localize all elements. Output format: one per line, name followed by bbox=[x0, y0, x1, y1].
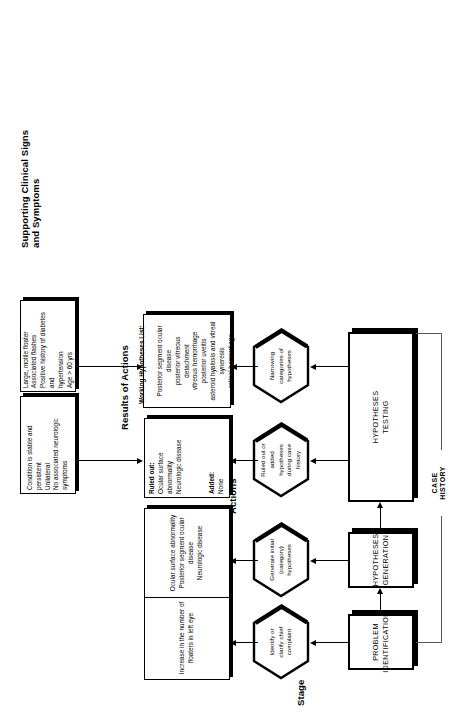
signs-box-working-hypotheses[interactable]: Large, motile floater Associated flashes… bbox=[20, 300, 76, 392]
figure-root: Stage Actions Results of Actions Support… bbox=[0, 0, 454, 722]
arrowhead-stage3-action4 bbox=[310, 364, 316, 370]
flowchart-canvas: Stage Actions Results of Actions Support… bbox=[0, 0, 454, 722]
connector-stage2-stage3 bbox=[380, 508, 381, 529]
signs-text: Large, motile floater Associated flashes… bbox=[20, 301, 77, 391]
case-history-leg-left bbox=[416, 642, 442, 643]
column-header-stage: Stage bbox=[296, 680, 307, 706]
stage-label: PROBLEM IDENTIFICATION bbox=[369, 608, 394, 675]
stage-label: HYPOTHESES GENERATION bbox=[369, 531, 394, 590]
action-hexagon-identify-chief-complaint[interactable]: Identify or clarify chief complaint bbox=[252, 604, 310, 680]
action-label: Generate initial (category) hypotheses bbox=[252, 522, 310, 598]
arrowhead-action1-result1 bbox=[230, 640, 236, 646]
result-text: Increase in the number of floaters in le… bbox=[176, 599, 198, 677]
arrowhead-action2-result2 bbox=[230, 558, 236, 564]
result-box-ruled-out-added[interactable]: Ruled out: Ocular surface abnormality Ne… bbox=[144, 418, 230, 498]
case-history-label: CASE HISTORY bbox=[431, 450, 448, 516]
case-history-leg-right bbox=[416, 333, 442, 334]
result-heading-added: Added: bbox=[208, 472, 215, 494]
arrowhead-stage3-action3 bbox=[310, 458, 316, 464]
stage-box-problem-identification[interactable]: PROBLEM IDENTIFICATION bbox=[348, 614, 414, 670]
arrowhead-stage1-action1 bbox=[310, 640, 316, 646]
result-body-added: None bbox=[217, 422, 226, 494]
column-header-signs: Supporting Clinical Signs and Symptoms bbox=[20, 130, 42, 248]
stage-label: HYPOTHESES TESTING bbox=[369, 388, 394, 447]
arrowhead-stage2-stage3 bbox=[377, 502, 383, 508]
signs-box-ruled-out[interactable]: Condition is stable and persistent Unila… bbox=[20, 396, 76, 494]
arrowhead-signs1-result3 bbox=[137, 458, 143, 464]
result-body-working-hypotheses: Posterior segment ocular disease posteri… bbox=[156, 318, 235, 404]
arrowhead-action3-result3 bbox=[230, 458, 236, 464]
connector-stage1-stage2 bbox=[380, 594, 381, 611]
connector-action3-result3 bbox=[236, 460, 258, 461]
signs-text: Condition is stable and persistent Unila… bbox=[24, 397, 72, 493]
stage-box-hypotheses-generation[interactable]: HYPOTHESES GENERATION bbox=[348, 532, 414, 588]
connector-action4-result4 bbox=[237, 366, 258, 367]
arrowhead-stage1-stage2 bbox=[377, 588, 383, 594]
connector-signs1-result3 bbox=[79, 460, 137, 461]
arrowhead-stage2-action2 bbox=[310, 558, 316, 564]
arrowhead-action4-result4 bbox=[231, 364, 237, 370]
connector-stage2-action2 bbox=[316, 560, 348, 561]
arrowhead-signs2-result4 bbox=[137, 364, 143, 370]
result-heading-working-hypotheses: Working Hypotheses List: bbox=[138, 318, 147, 404]
action-label: Narrowing categories of hypotheses bbox=[252, 328, 310, 404]
connector-action2-result2 bbox=[236, 560, 258, 561]
result-heading-ruled-out: Ruled out: bbox=[148, 462, 155, 494]
action-label: Ruled out or added hypotheses during cas… bbox=[252, 422, 310, 498]
connector-stage3-action4 bbox=[316, 366, 348, 367]
action-hexagon-narrowing-categories[interactable]: Narrowing categories of hypotheses bbox=[252, 328, 310, 404]
result-box-increase-floaters[interactable]: Increase in the number of floaters in le… bbox=[144, 596, 230, 680]
result-text: Ocular surface abnormality Posterior seg… bbox=[167, 512, 206, 594]
connector-stage1-action1 bbox=[316, 642, 348, 643]
result-body-ruled-out: Ocular surface abnormality Neurologic di… bbox=[157, 422, 183, 494]
result-box-working-hypotheses-list[interactable]: Working Hypotheses List: Posterior segme… bbox=[143, 314, 231, 408]
action-label: Identify or clarify chief complaint bbox=[252, 604, 310, 680]
connector-action1-result1 bbox=[236, 642, 258, 643]
action-hexagon-generate-initial-hypotheses[interactable]: Generate initial (category) hypotheses bbox=[252, 522, 310, 598]
connector-stage3-action3 bbox=[316, 460, 348, 461]
stage-box-hypotheses-testing[interactable]: HYPOTHESES TESTING bbox=[348, 332, 414, 502]
connector-signs2-result4 bbox=[79, 366, 137, 367]
result-box-initial-category-hypotheses[interactable]: Ocular surface abnormality Posterior seg… bbox=[144, 508, 230, 598]
action-hexagon-ruled-out-added-history[interactable]: Ruled out or added hypotheses during cas… bbox=[252, 422, 310, 498]
